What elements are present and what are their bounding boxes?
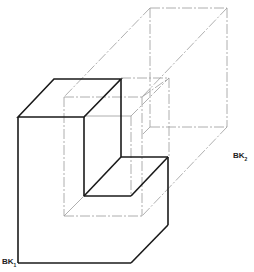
projection-diagram xyxy=(0,0,254,272)
label-bk1-subscript: 1 xyxy=(14,262,17,268)
label-bk2-subscript: 2 xyxy=(245,156,248,162)
l-shaped-solid xyxy=(18,79,168,263)
label-bk2-text: BK xyxy=(233,151,245,160)
label-bk1: BK1 xyxy=(2,257,16,268)
label-bk2: BK2 xyxy=(233,151,247,162)
label-bk1-text: BK xyxy=(2,257,14,266)
